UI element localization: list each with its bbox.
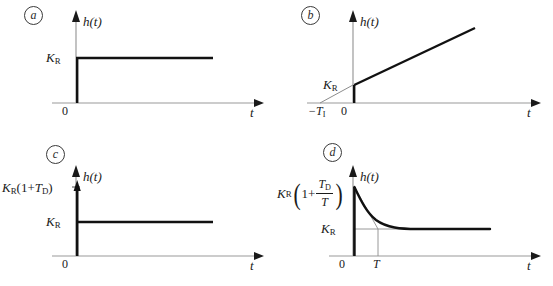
x-axis-arrowhead [531, 99, 541, 107]
value-label-a-k: K [46, 50, 55, 65]
panel-d-plot [277, 143, 553, 286]
peak-label-c-k: K [2, 180, 11, 195]
value-label-b: KR [323, 78, 338, 93]
panel-b: b h(t) t 0 −TI KR [277, 0, 553, 143]
y-axis-label-c: h(t) [83, 170, 102, 183]
value-label-d-k: K [321, 221, 330, 236]
x-axis-label-b: t [527, 106, 531, 119]
y-axis-label-a: h(t) [83, 15, 102, 28]
peak-label-d-denominator: T [319, 194, 330, 210]
x-axis-arrowhead [254, 99, 264, 107]
peak-label-d-one: 1+ [302, 186, 316, 202]
value-label-d: KR [321, 222, 336, 237]
panel-c: c h(t) t 0 KR KR(1+TD) [0, 143, 276, 286]
x-axis-label-c: t [250, 259, 254, 272]
y-axis-arrowhead [349, 165, 357, 177]
neg-ti-label-t: −T [308, 104, 323, 118]
value-label-d-sub: R [330, 227, 336, 237]
peak-label-d-numerator: TD [316, 177, 333, 193]
neg-ti-label-sub: I [323, 110, 326, 119]
peak-label-d: KR ( 1+ TD T ) [277, 177, 344, 210]
peak-label-d-sub: R [286, 189, 292, 199]
y-axis-label-b: h(t) [360, 15, 379, 28]
y-axis-label-d: h(t) [360, 170, 379, 183]
peak-label-c-open: (1+ [17, 180, 35, 195]
panel-a: a h(t) t 0 KR [0, 0, 276, 143]
value-label-a-sub: R [55, 56, 61, 66]
x-axis-arrowhead [254, 252, 264, 260]
panel-a-plot [0, 0, 276, 143]
neg-ti-label: −TI [308, 105, 326, 119]
y-axis-arrowhead [72, 10, 80, 22]
peak-label-d-open-paren: ( [293, 182, 300, 205]
y-axis-arrowhead [72, 165, 80, 177]
value-label-c: KR [46, 215, 61, 230]
peak-label-d-fraction: TD T [316, 177, 333, 210]
origin-label-b: 0 [341, 105, 347, 117]
origin-label-a: 0 [62, 105, 68, 117]
peak-label-c-td: T [35, 180, 42, 195]
value-label-b-sub: R [332, 83, 338, 93]
x-axis-arrowhead [531, 252, 541, 260]
value-label-c-k: K [46, 214, 55, 229]
panel-d: d h(t) t 0 T KR KR ( 1+ [277, 143, 553, 286]
value-label-c-sub: R [55, 220, 61, 230]
time-constant-label: T [373, 258, 380, 270]
peak-label-c-close: ) [48, 180, 52, 195]
peak-label-d-close-paren: ) [335, 182, 342, 205]
x-axis-label-d: t [527, 259, 531, 272]
x-axis-label-a: t [250, 106, 254, 119]
origin-label-c: 0 [62, 258, 68, 270]
panel-c-plot [0, 143, 276, 286]
impulse-arrowhead [74, 180, 81, 191]
panel-b-plot [277, 0, 553, 143]
y-axis-arrowhead [349, 10, 357, 22]
origin-label-d: 0 [339, 258, 345, 270]
value-label-a: KR [46, 51, 61, 66]
value-label-b-k: K [323, 77, 332, 92]
peak-label-c: KR(1+TD) [2, 181, 53, 196]
peak-label-d-k: K [277, 186, 286, 202]
figure-root: a h(t) t 0 KR b [0, 0, 553, 286]
ramp-curve [354, 28, 475, 85]
step-response-curve [77, 58, 213, 103]
